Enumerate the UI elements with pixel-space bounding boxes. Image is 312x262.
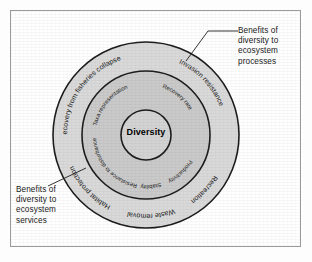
annotation-ecosystem-processes: Benefits of diversity to ecosystem proce… [238,26,304,67]
core-label: Diversity [113,127,179,137]
diagram-figure: Recovery from fisheries collapse Invasio… [0,0,312,262]
annotation-ecosystem-services: Benefits of diversity to ecosystem servi… [16,185,82,226]
